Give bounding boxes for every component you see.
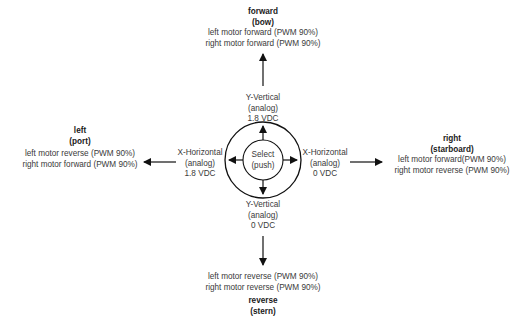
axis-type: (analog) [296,159,354,170]
axis-voltage: 0 VDC [223,221,303,232]
axis-voltage: 0 VDC [296,169,354,180]
push-text: (push) [243,161,283,172]
right-motor-state: right motor forward (PWM 90%) [183,39,343,50]
axis-type: (analog) [223,211,303,222]
direction-name: reverse [183,296,343,307]
axis-type: (analog) [223,104,303,115]
axis-name: Y-Vertical [223,200,303,211]
axis-type: (analog) [171,159,229,170]
axis-label-right: X-Horizontal (analog) 0 VDC [296,148,354,180]
axis-label-left: X-Horizontal (analog) 1.8 VDC [171,148,229,180]
axis-name: Y-Vertical [223,93,303,104]
direction-reverse: left motor reverse (PWM 90%) right motor… [183,272,343,317]
axis-name: X-Horizontal [171,148,229,159]
direction-alias: (bow) [183,18,343,29]
right-motor-state: right motor forward (PWM 90%) [10,160,150,171]
direction-alias: (port) [10,137,150,148]
direction-name: forward [183,7,343,18]
axis-label-up: Y-Vertical (analog) 1.8 VDC [223,93,303,125]
select-text: Select [243,150,283,161]
left-motor-state: left motor reverse (PWM 90%) [183,272,343,283]
direction-forward: forward (bow) left motor forward (PWM 90… [183,7,343,49]
direction-left: left (port) left motor reverse (PWM 90%)… [10,126,150,170]
select-label: Select (push) [243,150,283,171]
right-motor-state: right motor reverse (PWM 90%) [382,166,521,177]
right-motor-state: right motor reverse (PWM 90%) [183,283,343,294]
direction-name: left [10,126,150,137]
direction-alias: (starboard) [382,145,521,156]
direction-right: right (starboard) left motor forward(PWM… [382,134,521,176]
axis-name: X-Horizontal [296,148,354,159]
left-motor-state: left motor forward (PWM 90%) [183,28,343,39]
direction-name: right [382,134,521,145]
axis-voltage: 1.8 VDC [171,169,229,180]
left-motor-state: left motor forward(PWM 90%) [382,155,521,166]
axis-voltage: 1.8 VDC [223,114,303,125]
direction-alias: (stern) [183,307,343,318]
axis-label-down: Y-Vertical (analog) 0 VDC [223,200,303,232]
left-motor-state: left motor reverse (PWM 90%) [10,149,150,160]
